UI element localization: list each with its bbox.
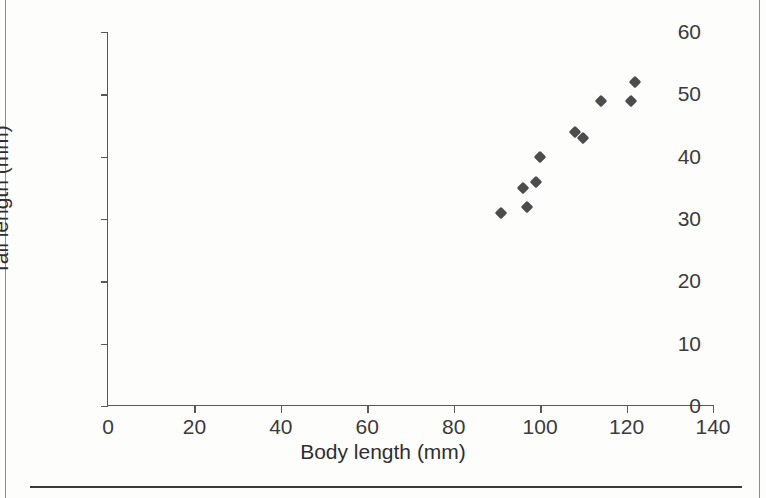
y-axis-tick xyxy=(101,281,108,282)
x-axis-tick-label: 0 xyxy=(102,416,114,437)
data-point xyxy=(594,94,607,107)
x-axis-title: Body length (mm) xyxy=(0,440,766,464)
x-axis-tick-label: 100 xyxy=(523,416,558,437)
y-axis-tick xyxy=(101,344,108,345)
y-axis-tick xyxy=(101,219,108,220)
y-axis-tick xyxy=(101,406,108,407)
y-axis-tick-label: 60 xyxy=(678,21,701,42)
scatter-chart: 0102030405060020406080100120140 Body len… xyxy=(0,0,766,470)
scanned-page: 0102030405060020406080100120140 Body len… xyxy=(0,0,766,498)
x-axis-tick-label: 80 xyxy=(442,416,465,437)
y-axis-tick-label: 50 xyxy=(678,83,701,104)
plot-area: 0102030405060020406080100120140 xyxy=(108,32,713,406)
data-point xyxy=(516,181,529,194)
x-axis-tick xyxy=(194,406,195,413)
page-horizontal-rule xyxy=(30,486,742,488)
data-point xyxy=(521,200,534,213)
data-point xyxy=(534,150,547,163)
x-axis-tick xyxy=(281,406,282,413)
data-point xyxy=(495,206,508,219)
y-axis-tick-label: 30 xyxy=(678,208,701,229)
x-axis-tick xyxy=(627,406,628,413)
data-point xyxy=(629,75,642,88)
y-axis-tick-label: 40 xyxy=(678,146,701,167)
x-axis-tick xyxy=(713,406,714,413)
y-axis-tick xyxy=(101,157,108,158)
y-axis-tick-label: 0 xyxy=(689,395,701,416)
y-axis-tick xyxy=(101,32,108,33)
y-axis-tick-label: 20 xyxy=(678,270,701,291)
x-axis-tick-label: 140 xyxy=(695,416,730,437)
y-axis-tick xyxy=(101,94,108,95)
y-axis-tick-label: 10 xyxy=(678,333,701,354)
x-axis-tick-label: 20 xyxy=(183,416,206,437)
x-axis-tick-label: 40 xyxy=(269,416,292,437)
x-axis-tick xyxy=(540,406,541,413)
x-axis-tick xyxy=(367,406,368,413)
data-point xyxy=(529,175,542,188)
x-axis-tick xyxy=(454,406,455,413)
y-axis-title: Tail length (mm) xyxy=(0,0,13,415)
x-axis-tick-label: 120 xyxy=(609,416,644,437)
x-axis-tick-label: 60 xyxy=(356,416,379,437)
data-point xyxy=(625,94,638,107)
